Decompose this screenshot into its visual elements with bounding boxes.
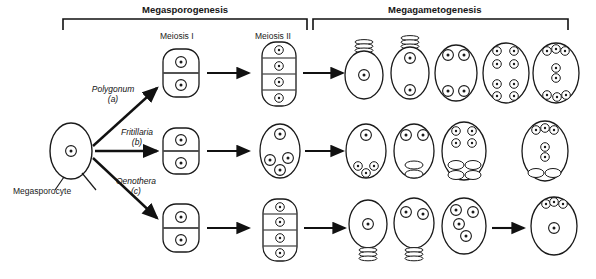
stage-label-meiosis-1: Meiosis I [160, 31, 194, 41]
section-title-megagametogenesis: Megagametogenesis [388, 4, 481, 15]
polygonum-megaspore-1n [345, 40, 383, 99]
pathway-label-oenothera: Oenothera (c) [97, 176, 175, 196]
polygonum-meiosis1-dyad [163, 49, 199, 97]
pathway-letter-polygonum: (a) [76, 94, 150, 104]
polygonum-mature-embryo-sac [533, 43, 579, 103]
pathway-name-polygonum: Polygonum [92, 84, 135, 94]
section-title-megasporogenesis: Megasporogenesis [142, 4, 228, 15]
oenothera-mature-embryo-sac [531, 197, 577, 255]
pathway-letter-oenothera: (c) [97, 186, 175, 196]
fritillaria-sac-stage2 [394, 124, 434, 178]
fritillaria-sac-stage3 [442, 122, 486, 180]
row-oenothera [163, 197, 577, 261]
oenothera-meiosis2-tetrad [263, 199, 297, 261]
stage-label-meiosis-2: Meiosis II [255, 31, 291, 41]
pathway-label-fritillaria: Fritillaria (b) [100, 127, 174, 147]
polygonum-sac-2n [391, 36, 429, 99]
row-polygonum [163, 36, 579, 106]
pathway-letter-fritillaria: (b) [100, 137, 174, 147]
fritillaria-sac-stage1 [346, 124, 386, 178]
figure-canvas: Megasporogenesis Megagametogenesis Meios… [0, 0, 596, 279]
pathway-label-polygonum: Polygonum (a) [76, 84, 150, 104]
oenothera-sac-4n [442, 198, 486, 254]
polygonum-sac-4n [435, 45, 477, 101]
pathway-name-oenothera: Oenothera [116, 176, 156, 186]
oenothera-megaspore-1n [349, 200, 387, 261]
fritillaria-coenomegaspore [260, 124, 300, 178]
bracket-megasporogenesis [63, 19, 307, 30]
pathway-name-fritillaria: Fritillaria [121, 127, 153, 137]
oenothera-sac-2n [394, 198, 434, 261]
row-fritillaria [163, 121, 568, 181]
bracket-megagametogenesis [313, 19, 568, 30]
polygonum-sac-8n [483, 43, 529, 103]
polygonum-meiosis2-tetrad [262, 42, 296, 106]
diagram-svg [0, 0, 596, 279]
oenothera-meiosis1-dyad [163, 204, 199, 252]
fritillaria-mature-embryo-sac [522, 121, 568, 181]
megasporocyte-label: Megasporocyte [13, 186, 71, 196]
megasporocyte-cell [50, 123, 96, 190]
